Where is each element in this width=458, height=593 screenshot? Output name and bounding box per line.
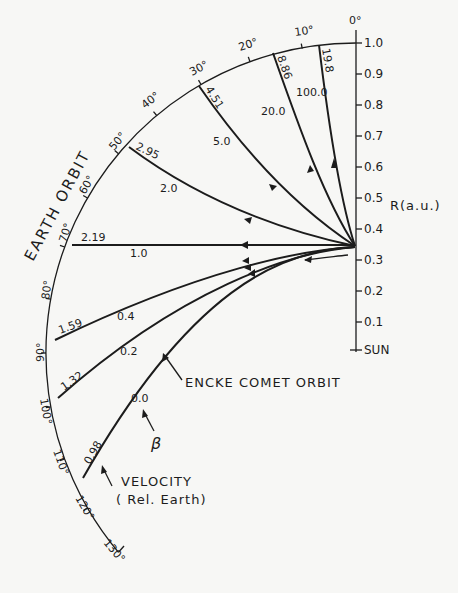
beta-label-20: 20.0 bbox=[261, 105, 286, 118]
r-tick-0-5: 0.5 bbox=[364, 191, 383, 205]
beta-label-5: 5.0 bbox=[213, 135, 231, 148]
direction-arrows bbox=[240, 158, 337, 277]
trajectory-beta-2 bbox=[129, 147, 355, 246]
arrow-beta-5 bbox=[269, 184, 277, 191]
beta-label-1: 1.0 bbox=[130, 247, 148, 260]
angle-label-110: 110° bbox=[50, 448, 71, 477]
angle-label-80: 80° bbox=[39, 279, 55, 300]
beta-label-100: 100.0 bbox=[296, 86, 328, 99]
arrow-beta-2 bbox=[244, 217, 252, 224]
velocity-pointer-arrowhead bbox=[101, 465, 107, 474]
angle-label-50: 50° bbox=[106, 130, 128, 153]
angle-label-0: 0° bbox=[349, 14, 362, 27]
r-tick-0-4: 0.4 bbox=[364, 222, 383, 236]
beta-label-0-0: 0.0 bbox=[131, 392, 149, 405]
arrow-incoming bbox=[304, 256, 312, 263]
velocity-label-line2: ( Rel. Earth) bbox=[116, 492, 206, 507]
encke-comet-orbit-label: ENCKE COMET ORBIT bbox=[185, 375, 341, 390]
r-tick-0-7: 0.7 bbox=[364, 129, 383, 143]
arrow-encke bbox=[248, 269, 255, 277]
annotations: ENCKE COMET ORBIT β VELOCITY ( Rel. Eart… bbox=[101, 353, 341, 507]
r-tick-0-8: 0.8 bbox=[364, 98, 383, 112]
angle-label-30: 30° bbox=[187, 58, 210, 79]
r-tick-0-9: 0.9 bbox=[364, 67, 383, 81]
velocity-label-2-19: 2.19 bbox=[81, 231, 106, 244]
angle-label-100: 100° bbox=[37, 397, 54, 425]
velocity-label-0-98: 0.98 bbox=[81, 439, 105, 467]
angle-label-40: 40° bbox=[139, 89, 162, 111]
angle-label-90: 90° bbox=[34, 343, 47, 363]
sun-label: SUN bbox=[364, 343, 389, 357]
r-tick-1-0: 1.0 bbox=[364, 36, 383, 50]
trajectory-beta-20 bbox=[273, 53, 355, 246]
angle-label-70: 70° bbox=[56, 221, 74, 244]
encke-pointer-line bbox=[165, 356, 182, 380]
beta-label-2: 2.0 bbox=[160, 182, 178, 195]
encke-trajectory-diagram: 0° 10° 20° 30° 40° 50° 60° 70° 80° 90° 1… bbox=[0, 0, 458, 593]
angle-label-10: 10° bbox=[294, 23, 315, 39]
r-tick-0-6: 0.6 bbox=[364, 160, 383, 174]
beta-symbol: β bbox=[150, 434, 161, 453]
arrow-beta-1 bbox=[240, 241, 248, 249]
r-tick-0-3: 0.3 bbox=[364, 253, 383, 267]
arrow-beta-20 bbox=[307, 165, 314, 173]
r-axis-tick-labels: 1.0 0.9 0.8 0.7 0.6 0.5 0.4 0.3 0.2 0.1 … bbox=[364, 36, 441, 357]
velocity-label-2-95: 2.95 bbox=[134, 140, 162, 162]
angle-label-120: 120° bbox=[72, 493, 97, 522]
r-tick-0-1: 0.1 bbox=[364, 315, 383, 329]
r-axis-label: R(a.u.) bbox=[390, 198, 441, 213]
velocity-label-line1: VELOCITY bbox=[121, 474, 192, 489]
angle-label-130: 130° bbox=[101, 537, 128, 566]
trajectory-encke-comet-orbit bbox=[83, 247, 355, 478]
beta-label-0-4: 0.4 bbox=[117, 310, 135, 323]
beta-label-0-2: 0.2 bbox=[120, 345, 138, 358]
r-tick-0-2: 0.2 bbox=[364, 284, 383, 298]
arrow-beta-0-4 bbox=[242, 257, 249, 264]
velocity-label-1-32: 1.32 bbox=[58, 369, 86, 394]
angle-label-20: 20° bbox=[237, 35, 260, 53]
